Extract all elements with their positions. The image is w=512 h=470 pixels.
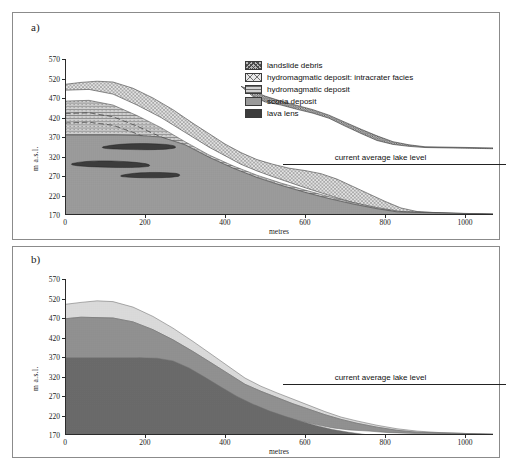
y-tick-a-7: 220 xyxy=(49,191,60,200)
legend-label-hydromagmatic-deposit: hydromagmatic deposit xyxy=(267,85,350,94)
x-tick-b-2: 400 xyxy=(219,438,230,447)
y-tick-a-4: 370 xyxy=(49,133,60,142)
x-tick-b-4: 800 xyxy=(379,438,390,447)
panel-a: a) xyxy=(12,12,500,240)
x-tick-b-0: 0 xyxy=(63,438,67,447)
y-tick-a-2: 470 xyxy=(49,94,60,103)
x-tick-a-3: 600 xyxy=(299,218,310,227)
x-axis-label-a: metres xyxy=(269,227,289,236)
legend-item-lava-lens: lava lens xyxy=(245,108,413,119)
y-tick-a-5: 320 xyxy=(49,152,60,161)
x-axis-a xyxy=(65,214,493,215)
swatch-lava-lens-icon xyxy=(245,109,262,118)
x-tick-b-1: 200 xyxy=(139,438,150,447)
x-tick-b-3: 600 xyxy=(299,438,310,447)
y-axis-b xyxy=(65,279,66,435)
x-tick-a-1: 200 xyxy=(139,218,150,227)
y-axis-label-b: m a.s.l. xyxy=(31,366,40,391)
y-tick-b-7: 220 xyxy=(49,411,60,420)
y-tick-a-6: 270 xyxy=(49,172,60,181)
y-axis-a xyxy=(65,59,66,215)
x-tick-a-2: 400 xyxy=(219,218,230,227)
x-axis-b xyxy=(65,434,493,435)
swatch-scoria-deposit-icon xyxy=(245,97,262,106)
y-tick-a-0: 570 xyxy=(49,55,60,64)
y-tick-b-1: 520 xyxy=(49,294,60,303)
legend-item-landslide-debris: landslide debris xyxy=(245,60,413,71)
y-tick-a-1: 520 xyxy=(49,74,60,83)
swatch-hydromagmatic-deposit-icon xyxy=(245,85,262,94)
legend-label-scoria-deposit: scoria deposit xyxy=(267,97,316,106)
panel-b: b) xyxy=(12,246,500,458)
y-tick-a-3: 420 xyxy=(49,113,60,122)
legend-label-lava-lens: lava lens xyxy=(267,109,299,118)
legend-label-landslide-debris: landslide debris xyxy=(267,61,323,70)
x-tick-a-5: 1000 xyxy=(458,218,473,227)
legend-item-scoria-deposit: scoria deposit xyxy=(245,96,413,107)
cross-section-b-graphic xyxy=(65,279,493,435)
y-axis-label-a: m a.s.l. xyxy=(31,146,40,171)
lake-level-line-a xyxy=(283,164,506,165)
y-tick-b-2: 470 xyxy=(49,314,60,323)
y-tick-b-6: 270 xyxy=(49,392,60,401)
cross-section-b-plot: 570 520 470 420 370 320 270 220 170 0 xyxy=(65,279,493,435)
lake-level-label-b: current average lake level xyxy=(335,373,427,384)
figure-root: a) xyxy=(0,0,512,470)
x-tick-b-5: 1000 xyxy=(458,438,473,447)
swatch-intracrater-facies-icon xyxy=(245,73,262,82)
legend-item-hydromagmatic-deposit: hydromagmatic deposit xyxy=(245,84,413,95)
x-axis-label-b: metres xyxy=(269,447,289,456)
y-tick-a-8: 170 xyxy=(49,211,60,220)
y-tick-b-8: 170 xyxy=(49,431,60,440)
y-tick-b-0: 570 xyxy=(49,275,60,284)
y-tick-b-5: 320 xyxy=(49,372,60,381)
legend-item-intracrater-facies: hydromagmatic deposit: intracrater facie… xyxy=(245,72,413,83)
panel-a-letter: a) xyxy=(31,21,40,33)
panel-b-letter: b) xyxy=(31,253,40,265)
swatch-landslide-debris-icon xyxy=(245,61,262,70)
lake-level-label-a: current average lake level xyxy=(335,153,427,164)
y-tick-b-3: 420 xyxy=(49,333,60,342)
lake-level-line-b xyxy=(283,384,506,385)
x-tick-a-0: 0 xyxy=(63,218,67,227)
x-tick-a-4: 800 xyxy=(379,218,390,227)
legend-label-intracrater-facies: hydromagmatic deposit: intracrater facie… xyxy=(267,73,413,82)
legend-a: landslide debris hydromagmatic deposit: … xyxy=(245,60,413,119)
y-tick-b-4: 370 xyxy=(49,353,60,362)
